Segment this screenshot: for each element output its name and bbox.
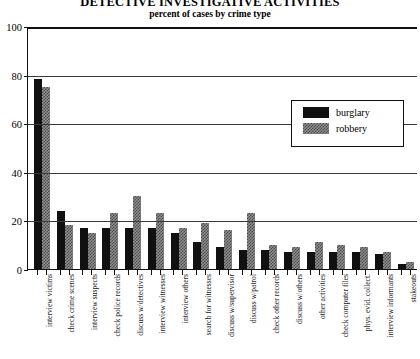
y-tick-label: 60 (12, 119, 23, 130)
x-axis-label: check crime scenes (67, 274, 76, 333)
bar-robbery (179, 228, 187, 269)
y-axis-tick (24, 221, 28, 222)
x-axis-labels: interview victimscheck crime scenesinter… (27, 274, 417, 359)
x-axis-label: discuss w/supervisor (227, 274, 236, 337)
bar-burglary (148, 228, 156, 269)
bar-group (326, 27, 349, 269)
legend-item-robbery: robbery (303, 123, 403, 134)
y-tick-label: 0 (17, 265, 22, 276)
bar-group (167, 27, 190, 269)
x-axis-label: phys. evid. collect. (363, 274, 372, 331)
y-axis-tick (24, 124, 28, 125)
legend-label-burglary: burglary (336, 107, 370, 118)
bar-burglary (284, 252, 292, 269)
legend-swatch-robbery (303, 123, 329, 134)
bar-group (258, 27, 281, 269)
bar-group (76, 27, 99, 269)
bar-burglary (352, 252, 360, 269)
bar-group (31, 27, 54, 269)
gridline (28, 221, 417, 222)
y-tick-label: 40 (12, 167, 23, 178)
bar-robbery (65, 225, 73, 269)
y-tick-label: 20 (12, 216, 23, 227)
chart-container: DETECTIVE INVESTIGATIVE ACTIVITIES perce… (0, 0, 420, 359)
bar-robbery (133, 196, 141, 269)
x-axis-label: interview suspects (90, 274, 99, 330)
y-axis-tick (24, 173, 28, 174)
bar-robbery (201, 223, 209, 269)
legend-item-burglary: burglary (303, 107, 403, 118)
chart-legend: burglary robbery (291, 100, 404, 147)
bar-robbery (88, 233, 96, 269)
x-axis-label: other activities (318, 274, 327, 319)
gridline (28, 173, 417, 174)
bar-group (122, 27, 145, 269)
bar-robbery (292, 247, 300, 269)
x-axis-label: discuss w/detectives (136, 274, 145, 336)
bar-burglary (307, 252, 315, 269)
bar-burglary (216, 247, 224, 269)
bar-group (99, 27, 122, 269)
bar-burglary (57, 211, 65, 269)
chart-subtitle: percent of cases by crime type (0, 9, 420, 19)
x-axis-label: discuss w/others (295, 274, 304, 324)
x-axis-label: interview others (181, 274, 190, 323)
bar-group (372, 27, 395, 269)
bar-group (303, 27, 326, 269)
bar-burglary (34, 79, 42, 269)
x-axis-label: check computer files (341, 274, 350, 337)
x-axis-label: interview victims (45, 274, 54, 327)
x-axis-label: check police records (113, 274, 122, 336)
legend-label-robbery: robbery (336, 123, 367, 134)
bar-robbery (383, 252, 391, 269)
bar-robbery (42, 87, 50, 269)
bar-group (54, 27, 77, 269)
x-axis-label: search for witnesses (204, 274, 213, 335)
bar-robbery (406, 262, 414, 269)
bar-group (190, 27, 213, 269)
gridline (28, 76, 417, 77)
bar-burglary (239, 250, 247, 269)
bar-burglary (171, 233, 179, 269)
y-axis-tick (24, 76, 28, 77)
bar-robbery (224, 230, 232, 269)
bar-group (213, 27, 236, 269)
bar-burglary (125, 228, 133, 269)
bar-burglary (329, 252, 337, 269)
bar-robbery (337, 245, 345, 269)
bar-group (281, 27, 304, 269)
bar-burglary (398, 264, 406, 269)
y-tick-label: 100 (6, 22, 22, 33)
bar-burglary (261, 250, 269, 269)
bar-groups (28, 27, 417, 269)
bar-robbery (269, 245, 277, 269)
bar-group (394, 27, 417, 269)
y-axis-tick (24, 27, 28, 28)
x-axis-label: interview witnesses (158, 274, 167, 334)
bar-burglary (102, 228, 110, 269)
bar-robbery (315, 242, 323, 269)
bar-burglary (80, 228, 88, 269)
bar-group (349, 27, 372, 269)
x-axis-label: check other records (272, 274, 281, 333)
legend-swatch-burglary (303, 107, 329, 118)
bar-burglary (193, 242, 201, 269)
y-tick-label: 80 (12, 70, 23, 81)
bar-burglary (375, 254, 383, 269)
x-axis-label: discuss w/patrol (249, 274, 258, 323)
y-axis-labels: 020406080100 (0, 27, 25, 270)
x-axis-label: stakeouts (409, 274, 418, 302)
bar-robbery (360, 247, 368, 269)
bar-group (145, 27, 168, 269)
x-axis-label: interview informants (386, 274, 395, 337)
bar-group (235, 27, 258, 269)
plot-area (27, 27, 417, 270)
